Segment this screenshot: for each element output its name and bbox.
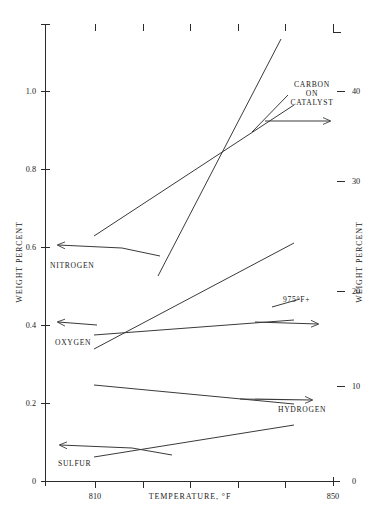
right-axis-ticks <box>337 92 345 387</box>
series-line-hydrogen <box>94 385 294 404</box>
right-axis-corner-mark <box>334 24 342 32</box>
left-tick-label: 0.6 <box>26 243 36 252</box>
left-tick-label: 0.2 <box>26 399 36 408</box>
left-tick-label: 0.8 <box>26 165 36 174</box>
right-tick-label: 0 <box>352 477 356 486</box>
series-label-hydrogen: HYDROGEN <box>278 405 326 414</box>
right-tick-label: 10 <box>352 382 360 391</box>
series-label-975f-plus: 975°F+ <box>283 295 310 304</box>
series-label-oxygen: OXYGEN <box>55 338 91 347</box>
series-line-carbon-on-catalyst <box>158 39 281 276</box>
series-label-carbon-on-catalyst-line3: CATALYST <box>290 98 333 107</box>
series-label-carbon-on-catalyst-line2: ON <box>306 89 318 98</box>
leader-line-sulfur <box>132 448 172 455</box>
left-axis-title: WEIGHT PERCENT <box>15 221 24 303</box>
arrow-oxygen <box>58 322 97 325</box>
arrow-nitrogen <box>58 245 122 248</box>
right-tick-label: 30 <box>352 177 360 186</box>
chart-svg: 1.0 0.8 0.6 0.4 0.2 0 40 30 20 10 0 810 … <box>0 0 382 519</box>
left-tick-label: 1.0 <box>26 87 36 96</box>
arrow-975f-plus <box>255 322 318 324</box>
bottom-axis-ticks <box>46 477 334 488</box>
left-tick-labels: 1.0 0.8 0.6 0.4 0.2 0 <box>26 87 36 486</box>
series-line-sulfur <box>94 425 294 457</box>
bottom-tick-label: 850 <box>327 492 339 501</box>
leader-line-carbon-on-catalyst <box>252 95 288 132</box>
series-label-sulfur: SULFUR <box>58 459 92 468</box>
series-line-nitrogen <box>94 105 294 236</box>
left-tick-label: 0 <box>32 477 36 486</box>
arrow-sulfur <box>60 445 132 448</box>
right-tick-label: 40 <box>352 87 360 96</box>
series-label-nitrogen: NITROGEN <box>50 261 94 270</box>
leader-line-nitrogen <box>122 248 160 256</box>
right-axis-title: WEIGHT PERCENT <box>355 221 364 303</box>
bottom-axis-title: TEMPERATURE, °F <box>149 492 231 501</box>
left-tick-label: 0.4 <box>26 321 36 330</box>
bottom-tick-label: 810 <box>89 492 101 501</box>
chart-container: 1.0 0.8 0.6 0.4 0.2 0 40 30 20 10 0 810 … <box>0 0 382 519</box>
series-label-carbon-on-catalyst-line1: CARBON <box>294 80 330 89</box>
top-axis-ticks <box>96 24 286 31</box>
